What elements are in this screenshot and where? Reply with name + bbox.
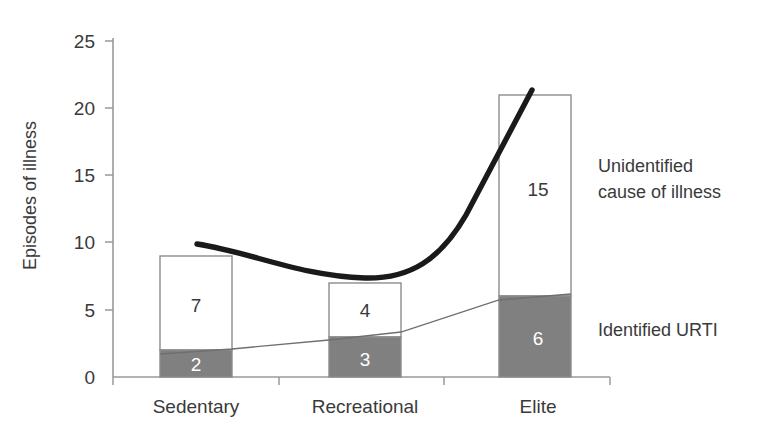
bar-value-recreational-identified: 3 <box>360 349 371 370</box>
chart-container: 25 20 15 10 5 0 Episodes of illness 7 2 … <box>0 0 766 444</box>
bar-value-recreational-unidentified: 4 <box>360 300 371 321</box>
j-shaped-curve <box>197 90 532 278</box>
annotation-identified-urti: Identified URTI <box>598 320 718 340</box>
y-tick-label-15: 15 <box>74 165 95 186</box>
x-category-label-recreational: Recreational <box>312 396 419 417</box>
bar-value-sedentary-identified: 2 <box>191 354 202 375</box>
x-category-label-elite: Elite <box>520 396 557 417</box>
y-tick-label-10: 10 <box>74 232 95 253</box>
bar-value-elite-identified: 6 <box>533 328 544 349</box>
x-category-label-sedentary: Sedentary <box>153 396 240 417</box>
y-tick-label-20: 20 <box>74 98 95 119</box>
annotation-unidentified-line2: cause of illness <box>598 182 721 202</box>
annotation-unidentified-line1: Unidentified <box>598 156 693 176</box>
bar-value-sedentary-unidentified: 7 <box>191 295 202 316</box>
y-tick-label-0: 0 <box>84 367 95 388</box>
y-axis-ticks <box>105 41 113 310</box>
episodes-of-illness-chart: 25 20 15 10 5 0 Episodes of illness 7 2 … <box>0 0 766 444</box>
bar-group-sedentary: 7 2 <box>160 256 232 377</box>
y-axis-title: Episodes of illness <box>20 121 40 270</box>
y-tick-label-25: 25 <box>74 31 95 52</box>
bar-value-elite-unidentified: 15 <box>527 179 548 200</box>
y-tick-label-5: 5 <box>84 300 95 321</box>
bar-group-recreational: 4 3 <box>329 283 401 377</box>
x-axis-ticks <box>113 377 610 385</box>
